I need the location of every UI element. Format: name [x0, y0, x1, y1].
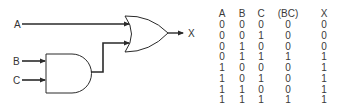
table-cell-c: 1: [258, 52, 264, 62]
table-cell-x: 1: [321, 95, 327, 105]
table-cell-x: 0: [321, 20, 327, 30]
table-cell-bc: 0: [285, 20, 291, 30]
table-cell-b: 0: [239, 31, 245, 41]
table-cell-bc: 0: [285, 74, 291, 84]
table-cell-a: 1: [219, 74, 225, 84]
table-cell-c: 1: [258, 95, 264, 105]
table-cell-x: 1: [321, 85, 327, 95]
table-cell-bc: 1: [285, 52, 291, 62]
table-cell-bc: 0: [285, 85, 291, 95]
table-cell-a: 0: [219, 31, 225, 41]
table-cell-x: 0: [321, 42, 327, 52]
table-cell-x: 1: [321, 52, 327, 62]
table-cell-b: 1: [239, 42, 245, 52]
truth-table: ABC(BC)X00000001000100001111100011010111…: [0, 0, 343, 111]
table-cell-a: 1: [219, 63, 225, 73]
table-cell-x: 1: [321, 63, 327, 73]
table-cell-bc: 1: [285, 95, 291, 105]
table-cell-c: 1: [258, 74, 264, 84]
table-cell-c: 0: [258, 20, 264, 30]
table-cell-b: 0: [239, 63, 245, 73]
column-header-c: C: [257, 9, 264, 19]
column-header-a: A: [219, 9, 226, 19]
table-cell-b: 0: [239, 20, 245, 30]
table-cell-b: 0: [239, 74, 245, 84]
table-cell-x: 0: [321, 31, 327, 41]
table-cell-a: 1: [219, 95, 225, 105]
table-cell-c: 1: [258, 31, 264, 41]
column-header-b: B: [239, 9, 246, 19]
table-cell-c: 0: [258, 42, 264, 52]
table-cell-x: 1: [321, 74, 327, 84]
column-header-bc: (BC): [278, 9, 299, 19]
table-cell-bc: 0: [285, 31, 291, 41]
table-cell-b: 1: [239, 95, 245, 105]
column-header-x: X: [321, 9, 328, 19]
table-cell-bc: 0: [285, 42, 291, 52]
table-cell-a: 0: [219, 20, 225, 30]
table-cell-b: 1: [239, 52, 245, 62]
table-cell-a: 1: [219, 85, 225, 95]
table-cell-b: 1: [239, 85, 245, 95]
table-cell-c: 0: [258, 63, 264, 73]
table-cell-bc: 0: [285, 63, 291, 73]
table-cell-c: 0: [258, 85, 264, 95]
table-cell-a: 0: [219, 52, 225, 62]
table-cell-a: 0: [219, 42, 225, 52]
